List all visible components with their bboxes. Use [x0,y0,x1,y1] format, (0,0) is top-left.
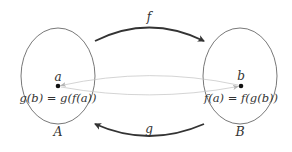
point-b [239,84,244,89]
point-a [56,84,61,89]
element-arrow-b-to-a [61,76,238,86]
set-b-label: B [234,124,244,139]
equation-right: f(a) = f(g(b)) [203,91,278,105]
point-b-label: b [237,69,245,83]
map-g-label: g [145,122,153,136]
map-f-label: f [146,10,154,24]
point-a-label: a [54,70,61,84]
map-f-arrow [95,28,204,42]
equation-left: g(b) = g(f(a)) [19,91,96,105]
set-a-label: A [52,124,62,139]
diagram-canvas: a b g(b) = g(f(a)) f(a) = f(g(b)) A B f … [0,0,292,152]
function-diagram: a b g(b) = g(f(a)) f(a) = f(g(b)) A B f … [0,0,292,152]
